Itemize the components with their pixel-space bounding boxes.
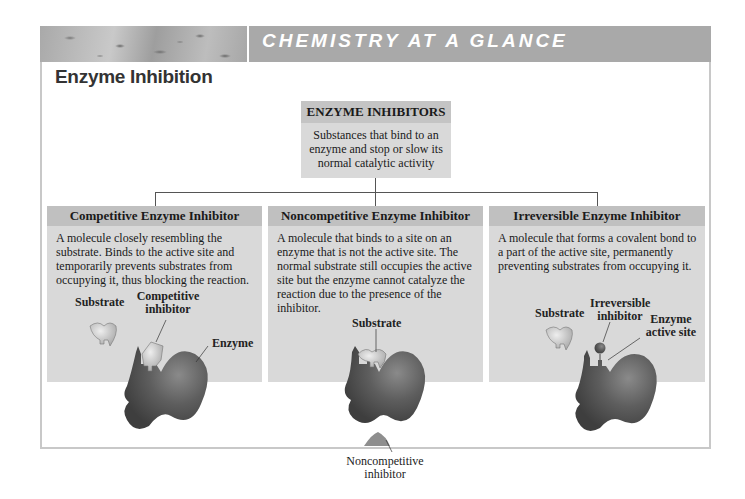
- label-substrate: Substrate: [352, 317, 401, 330]
- label-irreversible-inhibitor: Irreversible inhibitor: [590, 297, 650, 323]
- enzyme-icon: [575, 350, 656, 431]
- label-enzyme-active-site: Enzyme active site: [643, 313, 699, 339]
- irreversible-inhibitor-icon: [595, 343, 606, 361]
- substrate-icon: [546, 327, 572, 350]
- label-competitive-inhibitor: Competitive inhibitor: [133, 290, 203, 316]
- illustrations: [0, 0, 745, 499]
- leader-line: [196, 346, 208, 362]
- label-substrate: Substrate: [535, 307, 584, 320]
- noncompetitive-inhibitor-icon: [364, 432, 390, 446]
- leader-line: [603, 322, 610, 342]
- enzyme-icon: [124, 346, 207, 429]
- label-substrate: Substrate: [75, 296, 124, 309]
- label-enzyme: Enzyme: [212, 337, 253, 350]
- label-noncompetitive-inhibitor: Noncompetitive inhibitor: [345, 455, 425, 481]
- substrate-icon: [90, 323, 116, 346]
- leader-line: [156, 320, 166, 342]
